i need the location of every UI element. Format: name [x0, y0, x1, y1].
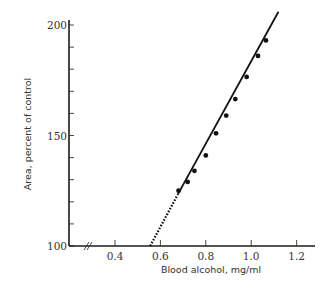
data-point — [185, 180, 190, 185]
y-tick-label: 150 — [47, 130, 67, 142]
fit-solid-line — [177, 12, 278, 195]
data-point — [224, 113, 229, 118]
extrapolation-dotted-line — [150, 195, 177, 246]
x-tick-label: 0.4 — [107, 250, 124, 262]
scatter-chart: 100150200 0.40.60.81.01.2 Area, percent … — [0, 0, 329, 287]
regression-line — [150, 12, 278, 246]
x-axis-title: Blood alcohol, mg/ml — [161, 264, 261, 275]
x-axis: 0.40.60.81.01.2 — [69, 240, 315, 262]
y-tick-label: 200 — [47, 19, 67, 31]
data-point — [214, 131, 219, 136]
x-tick-label: 0.8 — [197, 250, 214, 262]
data-point — [176, 188, 181, 193]
data-point — [244, 75, 249, 80]
y-axis-title: Area, percent of control — [22, 78, 33, 190]
data-point — [203, 153, 208, 158]
x-tick-label: 1.0 — [243, 250, 260, 262]
x-tick-label: 0.6 — [152, 250, 169, 262]
x-tick-label: 1.2 — [288, 250, 305, 262]
y-tick-label: 100 — [47, 240, 67, 252]
data-point — [256, 54, 261, 59]
data-point — [233, 97, 238, 102]
data-point — [192, 168, 197, 173]
y-axis: 100150200 — [47, 19, 74, 252]
data-point — [264, 38, 269, 43]
